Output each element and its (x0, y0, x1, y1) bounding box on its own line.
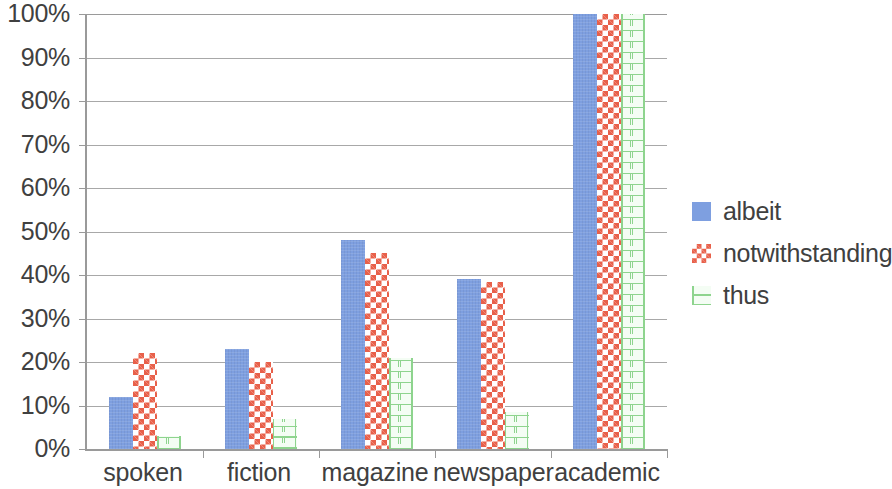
bar-magazine-notwithstanding (365, 253, 389, 449)
legend-item-notwithstanding[interactable]: notwithstanding (692, 232, 881, 274)
y-axis-tick-mark (79, 406, 87, 407)
y-axis-tick-mark (79, 275, 87, 276)
bar-academic-notwithstanding (597, 14, 621, 449)
y-axis-tick-mark (79, 319, 87, 320)
bar-newspaper-notwithstanding (481, 282, 505, 449)
y-axis-tick-mark (79, 449, 87, 450)
bar-newspaper-thus (505, 412, 529, 449)
x-axis-tick-label: academic (549, 458, 665, 486)
legend-label: thus (723, 282, 769, 308)
bar-fiction-notwithstanding (249, 362, 273, 449)
y-axis-tick-label: 80% (21, 88, 70, 113)
bar-newspaper-albeit (457, 279, 481, 449)
bar-magazine-albeit (341, 240, 365, 449)
y-axis-tick-label: 60% (21, 175, 70, 200)
y-axis-tick-mark (79, 188, 87, 189)
x-axis-tick-mark (667, 449, 668, 458)
legend-item-thus[interactable]: thus (692, 274, 881, 316)
y-axis-tick-label: 40% (21, 262, 70, 287)
y-axis-tick-mark (79, 58, 87, 59)
x-axis-tick-label: newspaper (433, 458, 549, 486)
legend-label: notwithstanding (723, 240, 892, 266)
y-axis-tick-mark (79, 145, 87, 146)
y-axis-tick-label: 30% (21, 306, 70, 331)
bar-spoken-thus (157, 436, 181, 449)
bar-academic-thus (621, 14, 645, 449)
y-axis-tick-mark (79, 362, 87, 363)
legend: albeitnotwithstandingthus (692, 190, 881, 316)
x-axis-tick-mark (319, 449, 320, 458)
x-axis-tick-mark (551, 449, 552, 458)
bar-fiction-thus (273, 419, 297, 449)
legend-item-albeit[interactable]: albeit (692, 190, 881, 232)
x-axis-tick-label: fiction (201, 458, 317, 486)
legend-swatch-albeit (692, 202, 711, 221)
y-axis-tick-label: 90% (21, 45, 70, 70)
y-axis: 100%90%80%70%60%50%40%30%20%10%0% (0, 0, 78, 489)
bar-spoken-notwithstanding (133, 353, 157, 449)
y-axis-tick-mark (79, 232, 87, 233)
bar-academic-albeit (573, 14, 597, 449)
bars-layer (87, 14, 667, 449)
y-axis-tick-mark (79, 101, 87, 102)
bar-spoken-albeit (109, 397, 133, 449)
y-axis-tick-label: 20% (21, 349, 70, 374)
x-axis: spokenfictionmagazinenewspaperacademic (85, 458, 665, 489)
x-axis-tick-label: spoken (85, 458, 201, 486)
x-axis-tick-mark (435, 449, 436, 458)
legend-swatch-notwithstanding (692, 244, 711, 263)
legend-swatch-thus (692, 286, 711, 305)
y-axis-tick-mark (79, 14, 87, 15)
bar-fiction-albeit (225, 349, 249, 449)
y-axis-tick-label: 100% (7, 1, 70, 26)
plot-area (85, 14, 667, 451)
y-axis-tick-label: 0% (34, 436, 70, 461)
y-axis-tick-label: 50% (21, 219, 70, 244)
y-axis-tick-label: 10% (21, 393, 70, 418)
legend-label: albeit (723, 198, 781, 224)
y-axis-tick-label: 70% (21, 132, 70, 157)
x-axis-tick-label: magazine (317, 458, 433, 486)
bar-magazine-thus (389, 358, 413, 449)
x-axis-tick-mark (203, 449, 204, 458)
